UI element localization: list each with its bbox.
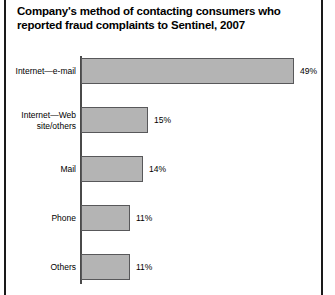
bar-value: 11% xyxy=(136,213,152,223)
bar xyxy=(81,254,130,280)
bar-label: Others xyxy=(0,262,76,273)
bar xyxy=(81,107,148,133)
bar-label: Phone xyxy=(0,213,76,224)
bar-label: Internet—Web site/others xyxy=(0,110,76,131)
bar-row: Phone 11% xyxy=(0,205,335,231)
bar-row: Others 11% xyxy=(0,254,335,280)
bar xyxy=(81,58,294,84)
chart-figure: Company's method of contacting consumers… xyxy=(0,0,335,295)
plot-area: Internet—e-mail 49% Internet—Web site/ot… xyxy=(0,56,335,288)
bar-label: Internet—e-mail xyxy=(0,66,76,77)
bar-value: 15% xyxy=(154,115,171,125)
bar-value: 14% xyxy=(149,164,166,174)
bar xyxy=(81,205,130,231)
bar-value: 49% xyxy=(300,66,317,76)
bar xyxy=(81,156,143,182)
bar-row: Internet—Web site/others 15% xyxy=(0,107,335,133)
bar-row: Mail 14% xyxy=(0,156,335,182)
bar-row: Internet—e-mail 49% xyxy=(0,58,335,84)
bar-value: 11% xyxy=(136,262,152,272)
chart-title: Company's method of contacting consumers… xyxy=(17,4,309,32)
bar-label: Mail xyxy=(0,164,76,175)
